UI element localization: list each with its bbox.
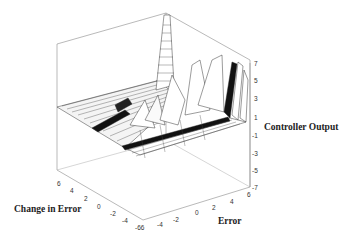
surface-mesh	[57, 15, 248, 158]
z-tick: -1	[252, 132, 258, 139]
z-tick: 5	[254, 77, 258, 84]
x-tick: 6	[247, 191, 251, 198]
y-tick: -2	[110, 210, 116, 217]
z-axis-title: Controller Output	[264, 122, 339, 132]
y-tick: 0	[97, 203, 101, 210]
y-tick: 4	[70, 187, 74, 194]
y-tick: -4	[122, 217, 128, 224]
y-axis-title: Change in Error	[14, 204, 82, 214]
x-tick: 4	[230, 198, 234, 205]
z-tick: -5	[252, 167, 258, 174]
z-tick: 7	[254, 60, 258, 67]
y-tick: 2	[84, 195, 88, 202]
z-tick: 1	[254, 114, 258, 121]
z-axis: 7 5 3 1 -1 -3 -5 -7 Controller Output	[250, 60, 339, 191]
x-axis-title: Error	[218, 216, 242, 226]
y-axis: 6 4 2 0 -2 -4 -66 Change in Error	[14, 180, 145, 231]
z-tick: -7	[252, 184, 258, 191]
x-tick: -2	[173, 216, 179, 223]
x-tick: 0	[195, 209, 199, 216]
z-tick: 3	[254, 95, 258, 102]
surface-plot: 7 5 3 1 -1 -3 -5 -7 Controller Output 6 …	[0, 0, 352, 250]
x-tick: 2	[212, 204, 216, 211]
x-tick: -4	[157, 221, 163, 228]
x-axis: -4 -2 0 2 4 6 Error	[157, 191, 251, 228]
z-tick: -3	[252, 150, 258, 157]
y-tick: 6	[57, 180, 61, 187]
corner-tick: -66	[135, 224, 145, 231]
